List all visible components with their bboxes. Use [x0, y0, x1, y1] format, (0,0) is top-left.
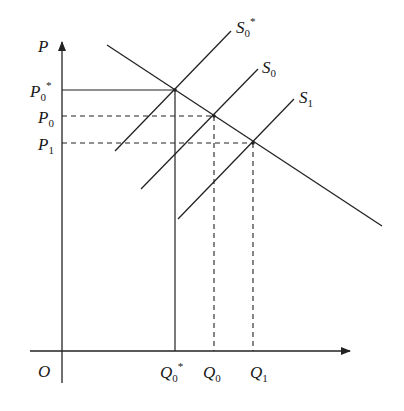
curve-label-s1: S1 — [299, 88, 313, 109]
equilibrium-point-star — [173, 88, 177, 92]
origin-label: O — [38, 362, 50, 381]
supply-curve-s0-star — [115, 31, 231, 151]
supply-curve-s1 — [178, 99, 294, 219]
supply-demand-diagram: P O P0* P0 P1 Q0* Q0 Q1 S0* S0 S1 — [0, 0, 404, 411]
demand-curve — [107, 45, 382, 226]
quantity-label-q0-star: Q0* — [160, 360, 183, 384]
quantity-label-q1: Q1 — [250, 363, 268, 384]
equilibrium-point-0 — [212, 114, 216, 118]
price-label-p0: P0 — [37, 108, 54, 129]
price-label-p1: P1 — [37, 135, 54, 156]
supply-curve-s0 — [141, 69, 258, 189]
y-axis-label: P — [37, 37, 48, 56]
quantity-label-q0: Q0 — [203, 363, 221, 384]
curve-label-s0-star: S0* — [236, 15, 256, 39]
equilibrium-point-1 — [251, 141, 255, 145]
curve-label-s0: S0 — [262, 58, 277, 79]
price-label-p0-star: P0* — [29, 79, 51, 103]
